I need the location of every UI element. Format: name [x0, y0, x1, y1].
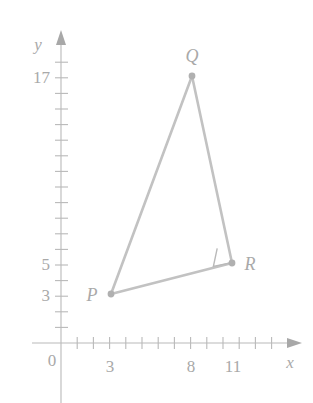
- triangle-edge-pq: [111, 76, 192, 294]
- triangle-edge-rp: [111, 263, 232, 294]
- y-axis-label: y: [32, 35, 42, 54]
- triangle-edge-qr: [192, 76, 232, 263]
- x-tick-label-8: 8: [187, 357, 196, 376]
- y-tick-label-5: 5: [42, 255, 51, 274]
- x-tick-label-11: 11: [225, 357, 241, 376]
- vertex-dot-q: [189, 73, 196, 80]
- y-axis-arrow-icon: [56, 30, 66, 45]
- vertex-label-r: R: [244, 254, 256, 274]
- x-tick-label-3: 3: [106, 357, 115, 376]
- y-tick-label-17: 17: [33, 68, 51, 87]
- coordinate-plane-figure: y 17 5 3: [0, 0, 313, 403]
- vertex-dot-r: [229, 260, 236, 267]
- y-axis-group: y 17 5 3: [32, 30, 68, 403]
- origin-label: 0: [48, 351, 57, 370]
- x-axis-label: x: [285, 353, 294, 372]
- triangle-diagram-svg: y 17 5 3: [0, 0, 313, 403]
- x-axis-arrow-icon: [287, 338, 302, 348]
- vertex-dot-p: [108, 291, 115, 298]
- vertex-label-q: Q: [186, 46, 199, 66]
- vertex-label-p: P: [86, 285, 98, 305]
- y-tick-label-3: 3: [42, 286, 51, 305]
- x-axis-group: x 0 3 8 11: [32, 337, 302, 376]
- vertex-labels: P Q R: [86, 46, 256, 305]
